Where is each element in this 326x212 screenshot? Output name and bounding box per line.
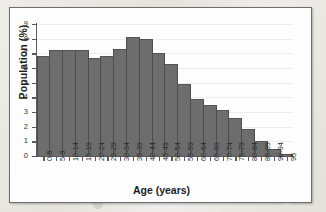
bar-series	[37, 24, 293, 156]
x-axis-tick-label: 5-9	[59, 150, 66, 161]
y-axis-tick	[32, 141, 36, 142]
x-axis-tick-label: 40-44	[149, 142, 156, 161]
x-axis-tick-label: 70-74	[226, 142, 233, 161]
y-axis-tick	[32, 53, 36, 54]
y-axis-tick-label: 0	[14, 152, 28, 160]
x-axis-tick-label: 30-34	[123, 142, 130, 161]
plot-area	[37, 24, 293, 156]
bar	[100, 56, 114, 156]
y-axis-tick	[32, 97, 36, 98]
y-axis-tick-label: 2	[14, 123, 28, 131]
y-axis-tick	[32, 127, 36, 128]
y-axis-tick-label: 3	[14, 108, 28, 116]
y-axis-tick-label: 8	[14, 35, 28, 43]
bar	[126, 37, 140, 156]
bar	[49, 50, 63, 156]
x-axis-tick-label: 45-49	[162, 142, 169, 161]
y-axis-tick-label: 9	[14, 20, 28, 28]
x-axis-tick-label: 20-24	[98, 142, 105, 161]
x-axis-tick-label: 60-64	[200, 142, 207, 161]
y-axis-tick-label: 4	[14, 93, 28, 101]
y-axis-tick	[32, 68, 36, 69]
y-axis-tick-label: 7	[14, 49, 28, 57]
x-axis-tick-label: 75-79	[238, 142, 245, 161]
bar	[75, 50, 89, 156]
x-axis-tick-label: 55-59	[187, 142, 194, 161]
y-axis-line	[36, 23, 37, 157]
y-axis-tick	[32, 39, 36, 40]
x-axis-title: Age (years)	[10, 184, 313, 196]
y-axis-tick-label: 6	[14, 64, 28, 72]
x-axis-tick-label: 35-39	[136, 142, 143, 161]
bar	[152, 53, 166, 156]
x-axis-tick-label: 80-84	[251, 142, 258, 161]
bar	[37, 56, 51, 156]
x-axis-tick-label: 85-89	[264, 142, 271, 161]
x-axis-tick-label: 95	[290, 153, 297, 161]
chart-figure: Population (%) 0123456789 0-55-910-1415-…	[9, 7, 312, 203]
bar	[139, 39, 153, 156]
bar	[113, 49, 127, 156]
x-axis-tick-label: 50-54	[174, 142, 181, 161]
bar	[62, 50, 76, 156]
x-axis-tick-label: 65-69	[213, 142, 220, 161]
y-axis-tick	[32, 83, 36, 84]
y-axis-tick	[32, 24, 36, 25]
y-axis-tick-label: 1	[14, 137, 28, 145]
y-axis-tick	[32, 156, 36, 157]
x-axis-tick-label: 25-29	[110, 142, 117, 161]
x-axis-tick-label: 0-5	[46, 150, 53, 161]
y-axis-tick-label: 5	[14, 79, 28, 87]
x-axis-tick-label: 15-19	[85, 142, 92, 161]
y-axis-tick	[32, 112, 36, 113]
x-axis-tick-label: 90-94	[277, 142, 284, 161]
x-axis-tick-label: 10-14	[72, 142, 79, 161]
